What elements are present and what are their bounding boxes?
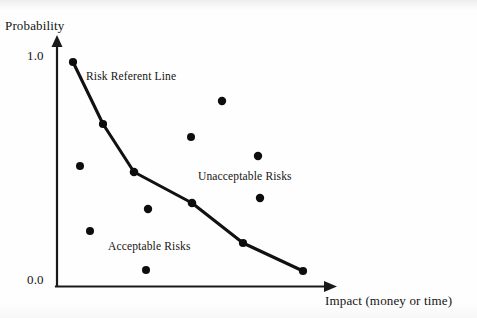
- risk-data-point: [76, 162, 84, 170]
- y-axis-arrow-icon: [52, 35, 63, 47]
- risk-data-point: [144, 205, 152, 213]
- x-axis-arrow-icon: [324, 281, 337, 292]
- referent-node-point: [239, 239, 247, 247]
- y-axis-tick-top: 1.0: [27, 48, 44, 63]
- acceptable-risks-label: Acceptable Risks: [108, 240, 191, 253]
- risk-referent-line-label: Risk Referent Line: [86, 70, 176, 82]
- x-axis-title: Impact (money or time): [325, 293, 452, 308]
- referent-node-point: [188, 199, 197, 208]
- risk-data-point: [254, 152, 262, 160]
- risk-data-point: [256, 194, 264, 202]
- unacceptable-risks-label: Unacceptable Risks: [198, 170, 292, 183]
- risk-referent-chart-figure: Probability 1.0 0.0 Impact (money or tim…: [0, 0, 477, 318]
- y-axis-tick-bottom: 0.0: [27, 272, 44, 287]
- referent-node-point: [130, 168, 139, 177]
- referent-node-point: [99, 120, 107, 128]
- risk-data-point: [86, 227, 94, 235]
- risk-data-point: [142, 266, 150, 274]
- y-axis-title: Probability: [5, 18, 65, 33]
- risk-data-point: [187, 133, 195, 141]
- chart-canvas: Probability 1.0 0.0 Impact (money or tim…: [0, 0, 477, 318]
- referent-node-point: [69, 58, 77, 66]
- referent-node-point: [299, 267, 307, 275]
- risk-data-point: [218, 97, 226, 105]
